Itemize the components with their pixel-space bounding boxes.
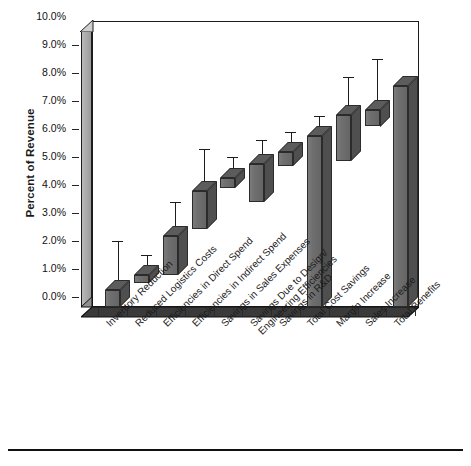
footer-rule <box>8 449 463 451</box>
x-axis-category-labels: Inventory ReductionReduced Logistics Cos… <box>0 0 471 466</box>
bar-chart: Percent of Revenue 0.0%1.0%2.0%3.0%4.0%5… <box>0 0 471 466</box>
